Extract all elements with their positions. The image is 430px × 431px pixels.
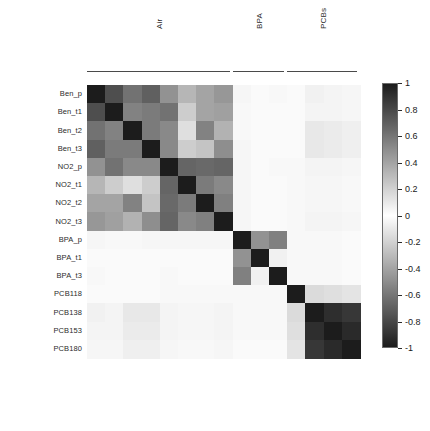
heatmap-cell — [251, 267, 270, 286]
heatmap-cell — [251, 176, 270, 195]
heatmap-cell — [105, 340, 124, 359]
heatmap-cell — [305, 231, 324, 250]
heatmap-cell — [160, 267, 179, 286]
heatmap-cell — [342, 176, 361, 195]
heatmap-cell — [305, 249, 324, 268]
heatmap-cell — [178, 176, 197, 195]
heatmap-cell — [160, 194, 179, 213]
heatmap-cell — [251, 212, 270, 231]
heatmap-cell — [160, 140, 179, 159]
colorbar-tick — [398, 136, 402, 137]
heatmap-cell — [233, 158, 252, 177]
heatmap-cell — [87, 103, 106, 122]
heatmap-cell — [287, 340, 306, 359]
heatmap-cell — [214, 212, 233, 231]
heatmap-cell — [160, 322, 179, 341]
row-label: PCB138 — [6, 308, 82, 317]
heatmap-cell — [105, 103, 124, 122]
group-label: BPA — [255, 13, 264, 29]
heatmap-cell — [342, 231, 361, 250]
heatmap-cell — [87, 322, 106, 341]
heatmap-cell — [214, 267, 233, 286]
colorbar-tick-label: -0.4 — [405, 264, 421, 274]
heatmap-cell — [251, 140, 270, 159]
heatmap-cell — [233, 212, 252, 231]
heatmap-cell — [123, 212, 142, 231]
colorbar-tick — [398, 83, 402, 84]
heatmap-cell — [87, 85, 106, 104]
heatmap-cell — [178, 212, 197, 231]
heatmap-cell — [287, 212, 306, 231]
heatmap-cell — [105, 85, 124, 104]
heatmap-cell — [342, 249, 361, 268]
row-label: Ben_t3 — [6, 144, 82, 153]
heatmap-cell — [178, 249, 197, 268]
heatmap-cell — [269, 158, 288, 177]
heatmap-cell — [87, 231, 106, 250]
heatmap-cell — [269, 231, 288, 250]
heatmap-cell — [142, 103, 161, 122]
colorbar-tick — [398, 189, 402, 190]
heatmap-cell — [160, 285, 179, 304]
heatmap-cell — [214, 176, 233, 195]
heatmap-cell — [178, 322, 197, 341]
heatmap-cell — [251, 322, 270, 341]
heatmap-cell — [251, 303, 270, 322]
row-label: BPA_p — [6, 235, 82, 244]
row-label: NO2_p — [6, 162, 82, 171]
heatmap-cell — [324, 194, 343, 213]
heatmap-cell — [160, 158, 179, 177]
colorbar-tick-label: -0.6 — [405, 290, 421, 300]
heatmap-cell — [269, 121, 288, 140]
heatmap-cell — [269, 176, 288, 195]
heatmap-cell — [269, 267, 288, 286]
row-label: BPA_t3 — [6, 271, 82, 280]
heatmap-cell — [305, 121, 324, 140]
heatmap-cell — [142, 176, 161, 195]
heatmap-cell — [123, 103, 142, 122]
colorbar-tick-label: -0.2 — [405, 237, 421, 247]
heatmap-cell — [196, 340, 215, 359]
heatmap-cell — [160, 249, 179, 268]
heatmap-cell — [305, 303, 324, 322]
heatmap-cell — [123, 340, 142, 359]
heatmap-cell — [251, 194, 270, 213]
heatmap-cell — [269, 303, 288, 322]
row-label: NO2_t3 — [6, 217, 82, 226]
row-label: NO2_t1 — [6, 180, 82, 189]
heatmap-cell — [233, 322, 252, 341]
heatmap-cell — [160, 303, 179, 322]
heatmap-cell — [287, 267, 306, 286]
heatmap-cell — [105, 212, 124, 231]
row-label: NO2_t2 — [6, 198, 82, 207]
heatmap-cell — [178, 140, 197, 159]
heatmap-cell — [324, 121, 343, 140]
heatmap-cell — [123, 285, 142, 304]
heatmap-cell — [178, 285, 197, 304]
heatmap-cell — [342, 140, 361, 159]
heatmap-cell — [342, 103, 361, 122]
heatmap-cell — [105, 285, 124, 304]
heatmap-cell — [214, 285, 233, 304]
heatmap-cell — [105, 176, 124, 195]
heatmap-cell — [142, 303, 161, 322]
colorbar-tick — [398, 322, 402, 323]
heatmap-cell — [324, 303, 343, 322]
heatmap-cell — [287, 285, 306, 304]
heatmap-cell — [269, 85, 288, 104]
colorbar-tick — [398, 269, 402, 270]
heatmap-cell — [324, 140, 343, 159]
heatmap-cell — [142, 140, 161, 159]
heatmap-cell — [305, 194, 324, 213]
heatmap-cell — [87, 340, 106, 359]
heatmap-cell — [105, 194, 124, 213]
colorbar-tick — [398, 295, 402, 296]
heatmap-cell — [324, 103, 343, 122]
heatmap-cell — [342, 285, 361, 304]
heatmap-cell — [105, 158, 124, 177]
colorbar-tick-label: -0.8 — [405, 317, 421, 327]
heatmap-cell — [233, 140, 252, 159]
colorbar-tick-label: 1 — [405, 78, 410, 88]
heatmap-cell — [142, 322, 161, 341]
heatmap-cell — [196, 85, 215, 104]
